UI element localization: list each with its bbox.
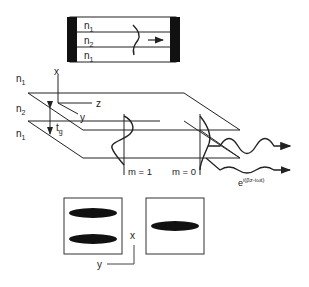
axis-x-label: x <box>54 66 59 77</box>
mode-curve <box>133 25 139 55</box>
mode-profiles: x y <box>64 198 204 270</box>
slab-labels: n1 n2 n1 x z y tg m = 1 m = 0 ei(βz-iωt) <box>16 66 264 188</box>
wave-expression: ei(βz-iωt) <box>238 177 264 188</box>
svg-text:y: y <box>97 259 102 270</box>
svg-text:n1: n1 <box>16 128 26 141</box>
panel-m1 <box>64 198 122 254</box>
svg-text:x: x <box>130 230 135 241</box>
svg-text:n2: n2 <box>84 35 94 48</box>
svg-text:n1: n1 <box>16 73 26 86</box>
axis-y-label: y <box>80 112 85 123</box>
axis-z-label: z <box>96 98 101 109</box>
right-mirror <box>170 17 180 62</box>
top-waveguide: n1 n2 n1 <box>67 17 180 63</box>
slab-waveguide <box>28 75 290 175</box>
svg-text:n1: n1 <box>84 20 94 33</box>
waveguide-diagram: n1 n2 n1 n1 n2 n1 x z y tg <box>0 0 309 287</box>
svg-text:n1: n1 <box>84 50 94 63</box>
mode-0-label: m = 0 <box>172 166 196 177</box>
thickness-label: tg <box>56 122 63 136</box>
mode-1-label: m = 1 <box>128 166 152 177</box>
left-mirror <box>67 17 77 62</box>
svg-text:n2: n2 <box>16 103 26 116</box>
